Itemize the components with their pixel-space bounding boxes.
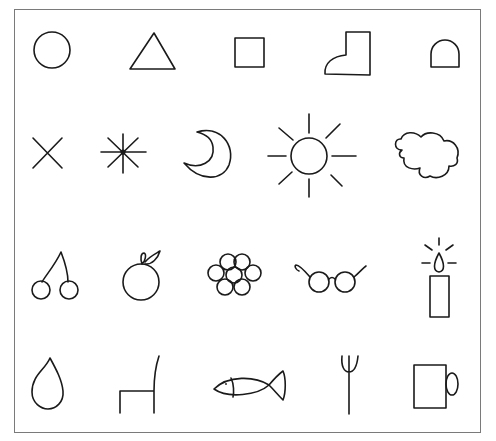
crescent-moon-icon (184, 131, 231, 178)
circle-icon (34, 32, 70, 68)
mug-icon (414, 365, 458, 408)
cherries-icon (32, 252, 78, 299)
fish-icon (214, 371, 285, 400)
triangle-icon (130, 33, 175, 69)
arch-icon (431, 40, 459, 67)
flower-icon (208, 254, 261, 295)
cloud-icon (396, 133, 459, 178)
water-drop-icon (32, 358, 63, 409)
candle-icon (422, 238, 456, 317)
glasses-icon (295, 265, 366, 292)
asterisk-star-icon (101, 134, 146, 173)
square-icon (235, 38, 264, 67)
fork-icon (342, 356, 358, 414)
chair-icon (120, 356, 159, 413)
boot-icon (325, 32, 370, 75)
sun-icon (268, 114, 356, 197)
apple-icon (123, 251, 160, 300)
cross-icon (33, 138, 62, 168)
symbol-grid (0, 0, 496, 441)
